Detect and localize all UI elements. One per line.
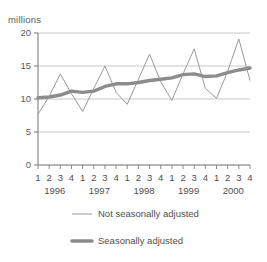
gridlines	[38, 33, 250, 165]
chart-legend: Not seasonally adjustedSeasonally adjust…	[72, 208, 199, 246]
x-tick-label: 1	[125, 172, 130, 183]
x-tick-label: 1	[35, 172, 40, 183]
x-tick-label: 4	[247, 172, 252, 183]
x-tick-label: 4	[113, 172, 118, 183]
x-tick-label: 2	[136, 172, 141, 183]
series-lines	[38, 39, 250, 114]
y-tick-label: 0	[26, 159, 31, 170]
line-chart-canvas: 05101520 12341234123412341234 1996199719…	[0, 0, 267, 262]
x-axis	[38, 165, 250, 169]
x-tick-label: 1	[169, 172, 174, 183]
y-tick-labels: 05101520	[20, 27, 31, 170]
x-tick-labels: 12341234123412341234	[35, 172, 252, 183]
x-tick-label: 2	[180, 172, 185, 183]
x-tick-label: 3	[58, 172, 63, 183]
x-tick-label: 1	[214, 172, 219, 183]
x-tick-label: 2	[47, 172, 52, 183]
y-tick-label: 20	[20, 27, 31, 38]
x-tick-label: 2	[225, 172, 230, 183]
x-tick-label: 2	[91, 172, 96, 183]
year-labels: 19961997199819992000	[44, 185, 244, 196]
year-label: 1996	[44, 185, 65, 196]
x-tick-label: 3	[147, 172, 152, 183]
legend-label: Not seasonally adjusted	[98, 208, 199, 219]
x-tick-label: 3	[102, 172, 107, 183]
x-tick-label: 4	[158, 172, 163, 183]
x-tick-label: 4	[203, 172, 208, 183]
chart-figure: millions 05101520 12341234123412341234 1…	[0, 0, 267, 262]
x-tick-label: 4	[69, 172, 74, 183]
year-label: 1998	[133, 185, 154, 196]
y-tick-label: 15	[20, 60, 31, 71]
x-tick-label: 3	[192, 172, 197, 183]
year-label: 2000	[223, 185, 244, 196]
legend-label: Seasonally adjusted	[98, 235, 183, 246]
year-label: 1997	[89, 185, 110, 196]
x-tick-label: 1	[80, 172, 85, 183]
x-tick-label: 3	[236, 172, 241, 183]
year-label: 1999	[178, 185, 199, 196]
y-tick-label: 5	[26, 126, 31, 137]
y-tick-label: 10	[20, 93, 31, 104]
